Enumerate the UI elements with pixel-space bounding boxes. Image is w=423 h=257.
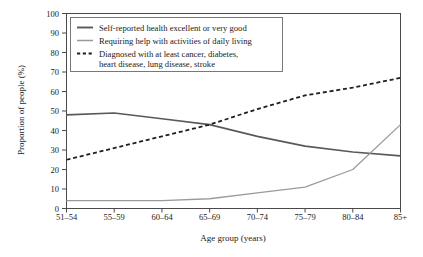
y-tick-label: 40 bbox=[51, 126, 60, 136]
y-tick-label: 80 bbox=[51, 48, 60, 58]
x-tick-label: 85+ bbox=[394, 212, 408, 222]
x-tick-label: 65–69 bbox=[199, 212, 220, 222]
y-tick-label: 100 bbox=[46, 9, 59, 19]
legend-label-diagnosed-conditions-line1: Diagnosed with at least cancer, diabetes… bbox=[99, 49, 238, 59]
y-axis-title: Proportion of people (%) bbox=[16, 65, 26, 155]
x-tick-label: 60–64 bbox=[151, 212, 173, 222]
data-series-group bbox=[67, 78, 401, 201]
x-tick-label: 51–54 bbox=[56, 212, 78, 222]
legend-label-requiring-help: Requiring help with activities of daily … bbox=[99, 36, 252, 46]
y-axis-tick-labels: 100 90 80 70 60 50 40 30 20 10 0 bbox=[46, 9, 59, 214]
y-tick-label: 10 bbox=[51, 184, 60, 194]
x-tick-label: 70–74 bbox=[247, 212, 269, 222]
x-tick-label: 55–59 bbox=[104, 212, 125, 222]
x-tick-label: 80–84 bbox=[342, 212, 364, 222]
legend-label-diagnosed-conditions-line2: heart disease, lung disease, stroke bbox=[99, 59, 215, 69]
x-axis-title: Age group (years) bbox=[200, 233, 265, 243]
y-tick-label: 30 bbox=[51, 145, 60, 155]
legend-label-self-reported-health: Self-reported health excellent or very g… bbox=[99, 23, 247, 33]
line-chart: 100 90 80 70 60 50 40 30 20 10 0 51–54 5… bbox=[0, 0, 423, 257]
y-axis-ticks bbox=[62, 14, 67, 209]
x-tick-label: 75–79 bbox=[294, 212, 315, 222]
x-axis-tick-labels: 51–54 55–59 60–64 65–69 70–74 75–79 80–8… bbox=[56, 212, 407, 222]
series-line-requiring-help-with-activities-of-daily- bbox=[67, 125, 401, 201]
chart-legend: Self-reported health excellent or very g… bbox=[71, 18, 283, 72]
y-tick-label: 20 bbox=[51, 165, 60, 175]
series-line-self-reported-health-excellent-or-very-g bbox=[67, 113, 401, 156]
series-line-diagnosed-with-at-least-cancer-diabetes- bbox=[67, 78, 401, 160]
y-tick-label: 50 bbox=[51, 106, 60, 116]
y-tick-label: 90 bbox=[51, 28, 60, 38]
y-tick-label: 60 bbox=[51, 87, 60, 97]
y-tick-label: 70 bbox=[51, 67, 60, 77]
chart-figure: 100 90 80 70 60 50 40 30 20 10 0 51–54 5… bbox=[0, 0, 423, 257]
